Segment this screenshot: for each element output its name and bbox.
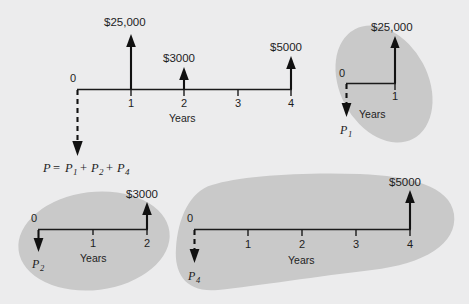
label-p1-zero: 0: [339, 67, 345, 79]
label-p4-tick-1: 1: [245, 238, 251, 250]
label-p2-tick-2: 2: [144, 237, 150, 249]
label-p4-tick-3: 3: [353, 238, 359, 250]
label-main-tick-4: 4: [288, 97, 294, 109]
label-main-tick-2: 2: [181, 97, 187, 109]
label-p4-symbol: P: [187, 269, 196, 283]
eq-lhs-p: P: [42, 161, 51, 175]
label-main-5000: $5000: [270, 41, 302, 53]
eq-plus-2: +: [106, 161, 113, 175]
label-p1-subscript: 1: [348, 129, 352, 139]
eq-term-p2: P: [90, 161, 99, 175]
eq-plus-1: +: [80, 161, 87, 175]
label-p2-years: Years: [80, 252, 106, 264]
label-main-years: Years: [169, 112, 195, 124]
label-p2-tick-1: 1: [90, 237, 96, 249]
label-p2-symbol: P: [31, 257, 40, 271]
label-p4-zero: 0: [187, 212, 193, 224]
label-p4-years: Years: [288, 254, 314, 266]
outflow-arrow-main-year0: [72, 90, 82, 156]
label-main-tick-1: 1: [128, 97, 134, 109]
label-p4-5000: $5000: [389, 176, 421, 188]
label-p4-tick-2: 2: [299, 238, 305, 250]
label-p1-tick-1: 1: [392, 90, 398, 102]
label-p1-years: Years: [359, 108, 385, 120]
equation-p-total: P = P 1 + P 2 + P 4: [42, 161, 130, 177]
eq-sub-1: 1: [73, 167, 78, 177]
label-main-3000: $3000: [163, 52, 195, 64]
eq-term-p1: P: [64, 161, 73, 175]
label-p2-zero: 0: [31, 212, 37, 224]
diagram-combined: $25,000 $3000 $5000 0 1 2 3 4 Years: [70, 16, 302, 156]
inflow-arrow-main-year4: [286, 56, 296, 89]
eq-term-p4: P: [116, 161, 125, 175]
label-p4-tick-4: 4: [407, 238, 413, 250]
figure-canvas: $25,000 $3000 $5000 0 1 2 3 4 Years P = …: [0, 0, 469, 304]
inflow-arrow-main-year2: [179, 67, 189, 89]
label-p1-25000: $25,000: [371, 21, 413, 33]
blob-group: [13, 9, 455, 299]
label-p1-symbol: P: [339, 123, 348, 137]
eq-equals: =: [53, 161, 60, 175]
blob-p4: [176, 173, 455, 290]
eq-sub-4: 4: [125, 167, 130, 177]
eq-sub-2: 2: [99, 167, 104, 177]
label-p2-3000: $3000: [126, 188, 158, 200]
cash-flow-diagram: $25,000 $3000 $5000 0 1 2 3 4 Years P = …: [0, 0, 469, 304]
label-main-zero: 0: [70, 72, 76, 84]
label-main-25000: $25,000: [104, 16, 146, 28]
inflow-arrow-main-year1: [126, 34, 136, 89]
label-main-tick-3: 3: [235, 97, 241, 109]
